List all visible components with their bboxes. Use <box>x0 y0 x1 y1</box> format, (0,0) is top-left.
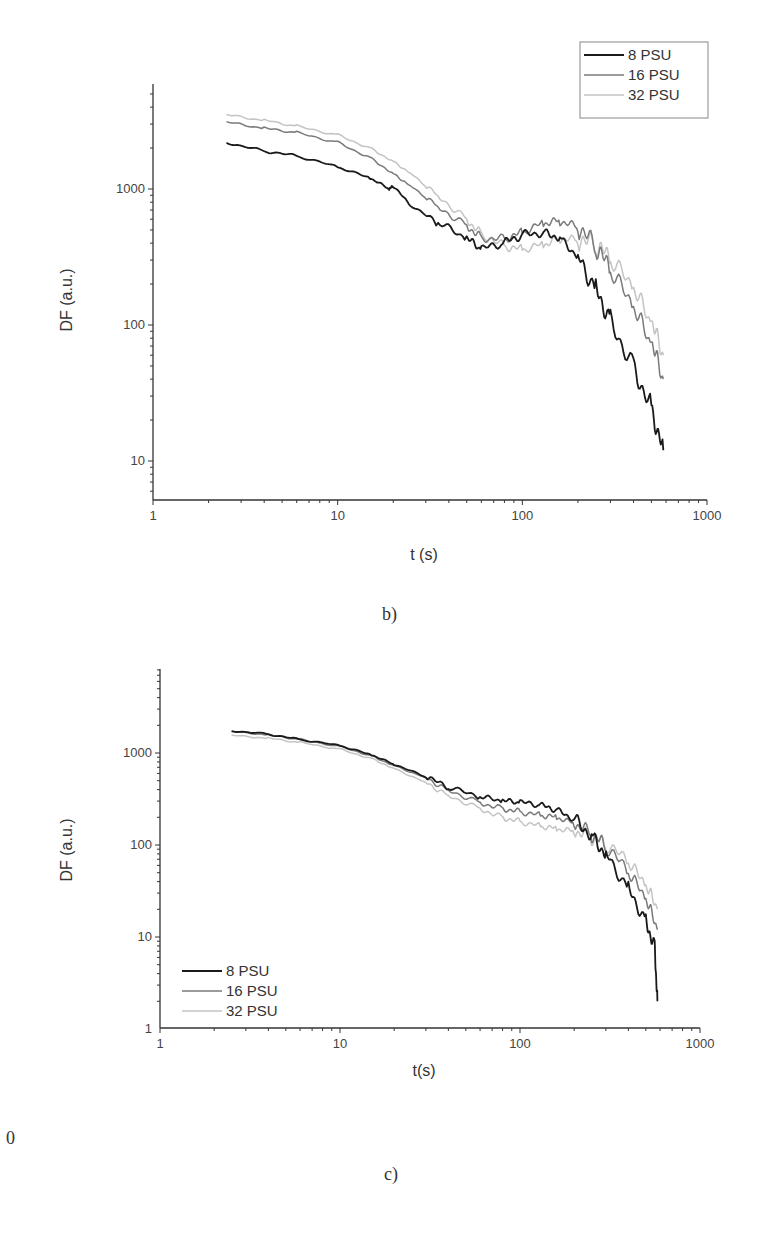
chart-b: 1101001000101001000t (s)DF (a.u.)8 PSU16… <box>58 42 721 563</box>
legend-label: 32 PSU <box>628 86 680 103</box>
y-tick-label: 1 <box>145 1021 152 1036</box>
x-tick-label: 1000 <box>693 508 722 523</box>
series-line-8-psu <box>227 143 664 450</box>
y-tick-label: 100 <box>130 837 152 852</box>
caption-b: b) <box>382 604 397 625</box>
y-axis-title: DF (a.u.) <box>58 818 75 881</box>
legend-label: 16 PSU <box>226 982 278 999</box>
legend: 8 PSU16 PSU32 PSU <box>182 962 278 1019</box>
legend-label: 8 PSU <box>628 46 671 63</box>
series-line-32-psu <box>232 735 658 909</box>
series-line-32-psu <box>227 115 664 356</box>
x-axis-title: t (s) <box>410 546 438 563</box>
x-tick-label: 100 <box>509 1036 531 1051</box>
x-axis-title: t(s) <box>412 1062 435 1079</box>
y-tick-label: 100 <box>123 317 145 332</box>
figure-canvas: 1101001000101001000t (s)DF (a.u.)8 PSU16… <box>0 0 776 1257</box>
chart-c: 11010010001101001000t(s)DF (a.u.)8 PSU16… <box>58 669 714 1079</box>
y-tick-label: 1000 <box>123 745 152 760</box>
x-tick-label: 1 <box>149 508 156 523</box>
series-line-16-psu <box>227 122 664 380</box>
y-tick-label: 10 <box>131 453 145 468</box>
caption-c: c) <box>384 1164 398 1185</box>
stray-page-number: 0 <box>6 1128 15 1149</box>
x-tick-label: 10 <box>330 508 344 523</box>
y-tick-label: 10 <box>138 929 152 944</box>
legend-label: 32 PSU <box>226 1002 278 1019</box>
x-tick-label: 1000 <box>686 1036 715 1051</box>
y-axis-title: DF (a.u.) <box>58 268 75 331</box>
x-tick-label: 10 <box>333 1036 347 1051</box>
y-tick-label: 1000 <box>116 181 145 196</box>
series-line-16-psu <box>232 731 658 929</box>
series-line-8-psu <box>232 731 658 1001</box>
legend-label: 8 PSU <box>226 962 269 979</box>
legend-label: 16 PSU <box>628 66 680 83</box>
x-tick-label: 1 <box>156 1036 163 1051</box>
legend: 8 PSU16 PSU32 PSU <box>580 42 708 118</box>
x-tick-label: 100 <box>511 508 533 523</box>
